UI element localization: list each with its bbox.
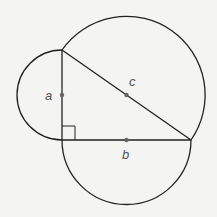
- diagram: a b c: [0, 0, 217, 217]
- label-c: c: [129, 74, 136, 89]
- semicircle-a: [17, 50, 62, 140]
- label-a: a: [45, 88, 52, 103]
- right-angle-marker: [62, 126, 75, 140]
- midpoint-b: [124, 138, 128, 142]
- label-b: b: [122, 147, 129, 162]
- midpoint-c: [124, 93, 128, 97]
- midpoint-a: [60, 93, 64, 97]
